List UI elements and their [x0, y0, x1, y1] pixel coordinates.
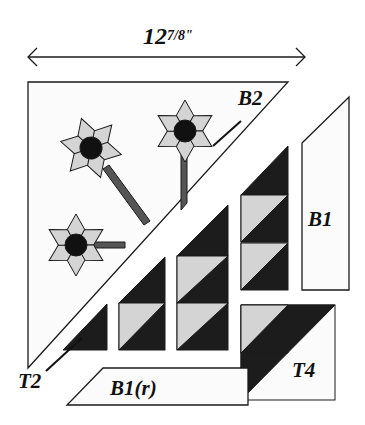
label-b1r: B1(r)	[109, 376, 157, 400]
label-t2: T2	[18, 369, 42, 393]
quilt-block-diagram: 127/8"	[0, 0, 365, 425]
flower-center	[65, 234, 87, 256]
hst-column-left	[119, 257, 165, 350]
hst-column-middle	[177, 205, 228, 350]
label-t4: T4	[292, 358, 315, 382]
label-b2: B2	[237, 86, 263, 110]
hst-column-right	[241, 146, 288, 290]
border-strip-right	[302, 97, 349, 290]
label-b1: B1	[307, 207, 333, 231]
flower-center	[174, 120, 196, 142]
corner-square	[241, 305, 335, 400]
border-strip-bottom	[67, 368, 248, 405]
dimension-label: 127/8"	[143, 23, 193, 49]
dimension-arrow	[28, 48, 305, 66]
